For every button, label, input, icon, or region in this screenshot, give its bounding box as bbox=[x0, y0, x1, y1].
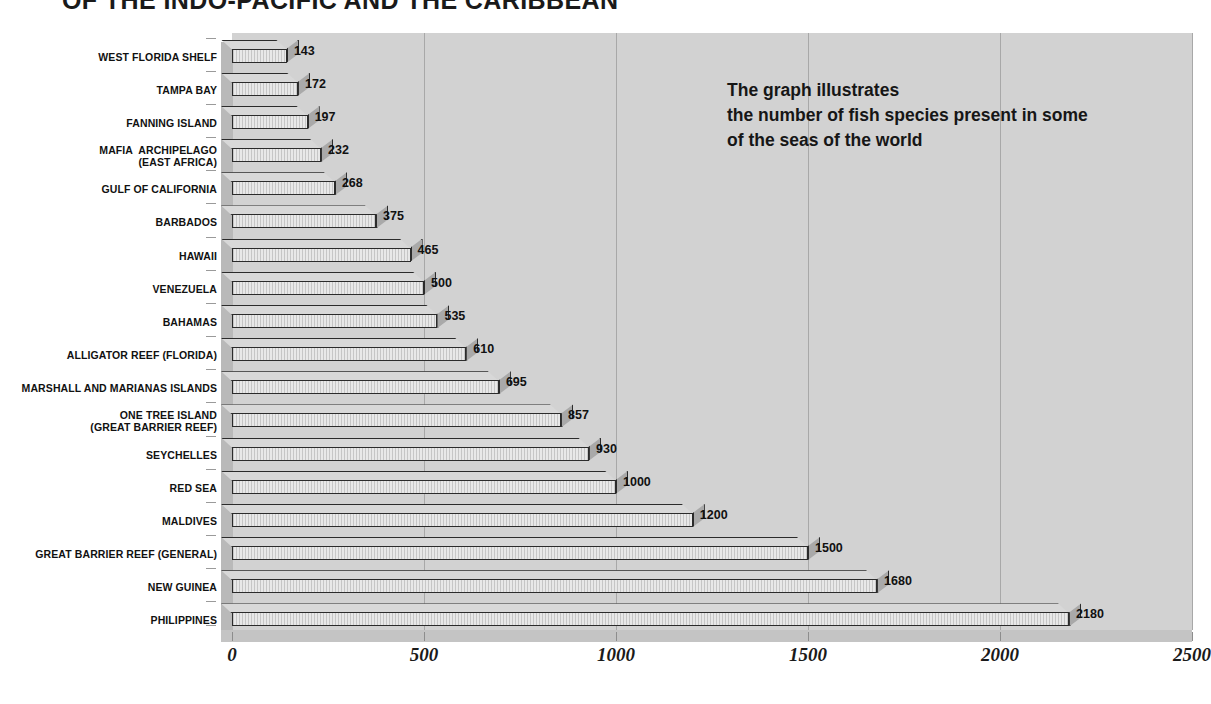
x-tick-mark bbox=[232, 632, 233, 641]
x-tick-mark bbox=[1192, 632, 1193, 641]
x-tick-label: 0 bbox=[227, 644, 237, 666]
x-tick-mark bbox=[808, 632, 809, 641]
x-tick-label: 2500 bbox=[1173, 644, 1211, 666]
x-tick-label: 500 bbox=[410, 644, 439, 666]
x-tick-label: 2000 bbox=[981, 644, 1019, 666]
chart-annotation: The graph illustrates the number of fish… bbox=[727, 78, 1088, 153]
x-tick-mark bbox=[616, 632, 617, 641]
x-tick-label: 1000 bbox=[597, 644, 635, 666]
x-tick-mark bbox=[1000, 632, 1001, 641]
x-tick-label: 1500 bbox=[789, 644, 827, 666]
x-tick-mark bbox=[424, 632, 425, 641]
